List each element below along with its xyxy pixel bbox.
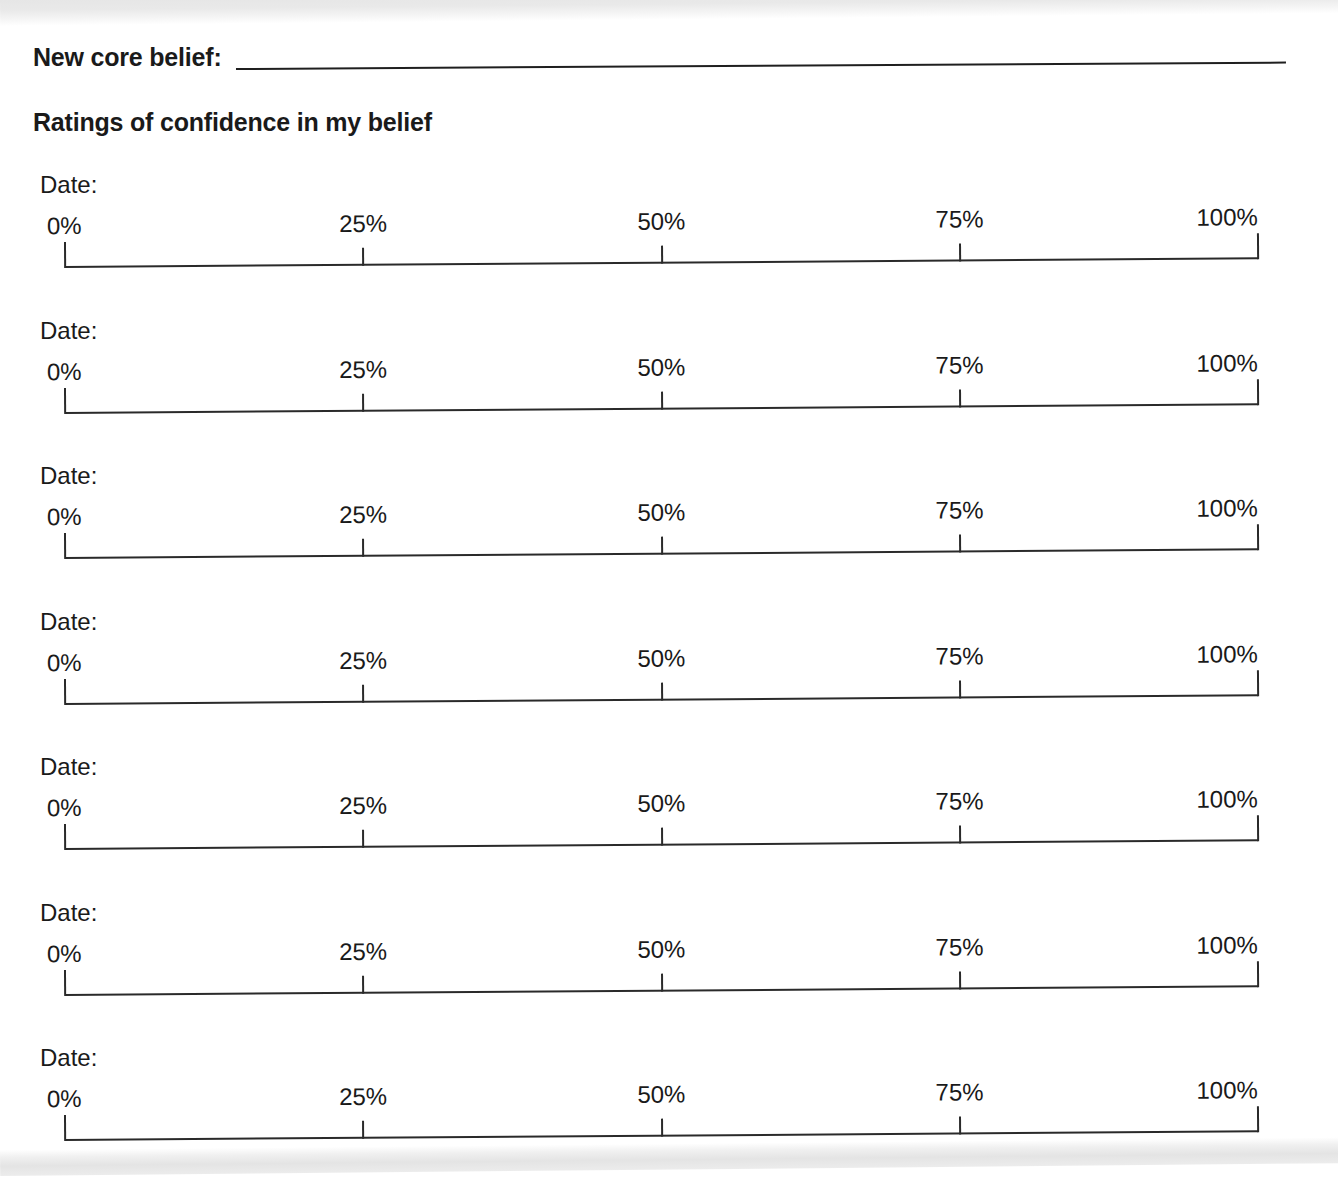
confidence-rating-scale[interactable]: 0%25%50%75%100% xyxy=(65,933,1258,1004)
scale-tick-label-0: 0% xyxy=(47,357,82,385)
scale-tick-label-0: 0% xyxy=(47,648,82,676)
scale-tick-label-75: 75% xyxy=(935,933,983,961)
scale-tick-label-50: 50% xyxy=(637,498,685,526)
scale-tick-50 xyxy=(661,973,663,991)
scale-tick-50 xyxy=(661,828,663,846)
confidence-rating-scale[interactable]: 0%25%50%75%100% xyxy=(65,787,1258,858)
rating-block: Date:0%25%50%75%100% xyxy=(0,1043,1338,1155)
scale-tick-label-50: 50% xyxy=(637,1080,685,1108)
rating-block: Date:0%25%50%75%100% xyxy=(0,607,1338,719)
worksheet-page: New core belief: Ratings of confidence i… xyxy=(0,0,1338,1196)
scale-tick-label-100: 100% xyxy=(1196,931,1258,959)
scale-tick-label-50: 50% xyxy=(637,644,685,672)
scale-tick-label-100: 100% xyxy=(1196,785,1258,813)
scale-tick-label-25: 25% xyxy=(339,1083,387,1111)
scale-tick-label-50: 50% xyxy=(637,207,685,235)
scale-tick-100 xyxy=(1257,1106,1259,1132)
scale-tick-0 xyxy=(64,242,66,268)
date-label[interactable]: Date: xyxy=(40,316,97,346)
scale-tick-label-100: 100% xyxy=(1196,1076,1258,1104)
scale-tick-25 xyxy=(362,684,364,702)
scan-edge-band-top xyxy=(0,0,1338,26)
scale-tick-25 xyxy=(362,539,364,557)
scale-tick-75 xyxy=(959,1116,961,1134)
date-label[interactable]: Date: xyxy=(40,607,97,637)
scale-tick-25 xyxy=(362,975,364,993)
date-label[interactable]: Date: xyxy=(40,1043,97,1073)
scale-tick-100 xyxy=(1257,670,1259,696)
scale-tick-label-0: 0% xyxy=(47,212,82,240)
scale-tick-label-75: 75% xyxy=(935,642,983,670)
scale-tick-label-25: 25% xyxy=(339,210,387,238)
rating-block: Date:0%25%50%75%100% xyxy=(0,170,1338,282)
scale-tick-label-75: 75% xyxy=(935,496,983,524)
scale-tick-label-50: 50% xyxy=(637,353,685,381)
scale-tick-label-75: 75% xyxy=(935,351,983,379)
scale-tick-50 xyxy=(661,682,663,700)
scale-tick-50 xyxy=(661,246,663,264)
scale-tick-label-50: 50% xyxy=(637,935,685,963)
scale-tick-label-100: 100% xyxy=(1196,349,1258,377)
scale-tick-label-100: 100% xyxy=(1196,203,1258,231)
new-core-belief-label: New core belief: xyxy=(33,42,222,72)
scale-tick-label-0: 0% xyxy=(47,1085,82,1113)
scale-tick-label-25: 25% xyxy=(339,646,387,674)
scale-tick-100 xyxy=(1257,524,1259,550)
rating-block: Date:0%25%50%75%100% xyxy=(0,752,1338,864)
scale-tick-0 xyxy=(64,969,66,995)
scale-tick-label-25: 25% xyxy=(339,792,387,820)
scale-tick-100 xyxy=(1257,961,1259,987)
new-core-belief-write-in-line[interactable] xyxy=(236,62,1286,70)
scale-tick-label-25: 25% xyxy=(339,501,387,529)
confidence-rating-scale[interactable]: 0%25%50%75%100% xyxy=(65,642,1258,713)
confidence-rating-scale[interactable]: 0%25%50%75%100% xyxy=(65,496,1258,567)
date-label[interactable]: Date: xyxy=(40,461,97,491)
scale-tick-label-100: 100% xyxy=(1196,640,1258,668)
scale-tick-50 xyxy=(661,1119,663,1137)
scale-tick-0 xyxy=(64,824,66,850)
scale-tick-25 xyxy=(362,1121,364,1139)
confidence-rating-scale[interactable]: 0%25%50%75%100% xyxy=(65,1078,1258,1149)
scale-tick-25 xyxy=(362,830,364,848)
scale-tick-25 xyxy=(362,248,364,266)
scale-tick-label-100: 100% xyxy=(1196,494,1258,522)
rating-block: Date:0%25%50%75%100% xyxy=(0,461,1338,573)
rating-block: Date:0%25%50%75%100% xyxy=(0,316,1338,428)
scale-tick-75 xyxy=(959,971,961,989)
scale-tick-label-0: 0% xyxy=(47,503,82,531)
rating-block: Date:0%25%50%75%100% xyxy=(0,898,1338,1010)
scale-tick-0 xyxy=(64,533,66,559)
scale-tick-label-50: 50% xyxy=(637,789,685,817)
scale-tick-100 xyxy=(1257,815,1259,841)
scale-tick-label-25: 25% xyxy=(339,355,387,383)
date-label[interactable]: Date: xyxy=(40,170,97,200)
new-core-belief-row: New core belief: xyxy=(33,42,1293,76)
scale-tick-75 xyxy=(959,825,961,843)
scale-tick-0 xyxy=(64,678,66,704)
date-label[interactable]: Date: xyxy=(40,898,97,928)
scale-tick-0 xyxy=(64,1115,66,1141)
date-label[interactable]: Date: xyxy=(40,752,97,782)
scale-tick-25 xyxy=(362,393,364,411)
scale-tick-100 xyxy=(1257,233,1259,259)
scale-tick-50 xyxy=(661,391,663,409)
scale-tick-75 xyxy=(959,389,961,407)
scale-tick-0 xyxy=(64,387,66,413)
section-heading-ratings-of-confidence: Ratings of confidence in my belief xyxy=(33,107,432,137)
scale-tick-label-75: 75% xyxy=(935,1078,983,1106)
scale-tick-label-0: 0% xyxy=(47,794,82,822)
scale-tick-label-75: 75% xyxy=(935,205,983,233)
confidence-rating-scale[interactable]: 0%25%50%75%100% xyxy=(65,205,1258,276)
scale-tick-label-25: 25% xyxy=(339,937,387,965)
scale-tick-75 xyxy=(959,680,961,698)
scale-tick-100 xyxy=(1257,379,1259,405)
scale-tick-75 xyxy=(959,243,961,261)
scale-tick-75 xyxy=(959,534,961,552)
scale-tick-50 xyxy=(661,537,663,555)
confidence-rating-scale[interactable]: 0%25%50%75%100% xyxy=(65,351,1258,422)
scale-tick-label-75: 75% xyxy=(935,787,983,815)
scale-tick-label-0: 0% xyxy=(47,939,82,967)
